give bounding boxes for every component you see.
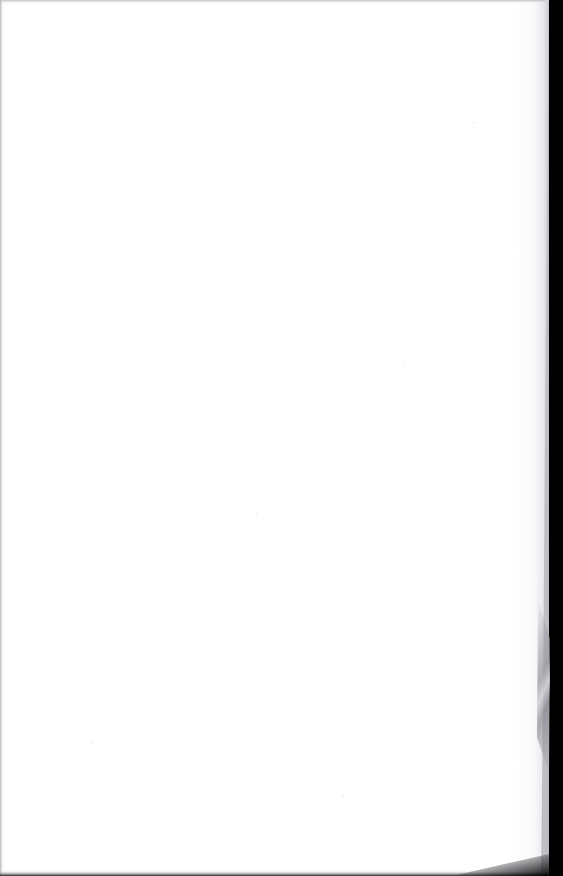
- scanned-page: Blank scanned page: [0, 0, 563, 876]
- paper-sheet: [0, 0, 549, 876]
